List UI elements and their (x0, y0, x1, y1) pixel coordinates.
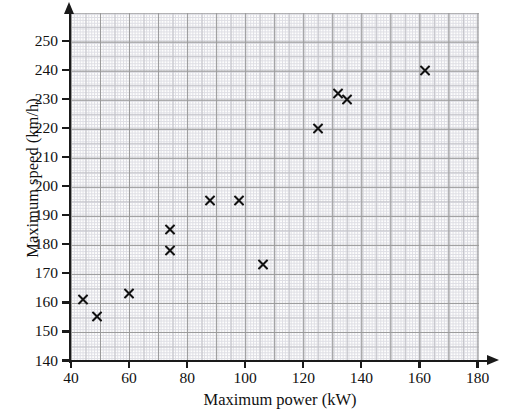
y-axis-tick (62, 330, 70, 332)
data-point-marker (310, 121, 325, 136)
data-point-marker (162, 243, 177, 258)
data-point-marker (255, 257, 270, 272)
x-axis-tick-label: 100 (220, 369, 270, 387)
x-axis-tick (186, 360, 188, 368)
y-axis-tick-label: 150 (18, 322, 58, 340)
data-point-marker (162, 222, 177, 237)
y-axis-tick (62, 69, 70, 71)
x-axis-tick (476, 360, 478, 368)
y-axis-tick (62, 127, 70, 129)
x-axis-tick-label: 60 (104, 369, 154, 387)
x-axis-tick (418, 360, 420, 368)
y-axis-tick (62, 185, 70, 187)
data-point-marker (203, 193, 218, 208)
x-axis-arrow-icon (487, 355, 499, 365)
x-axis-tick-label: 180 (453, 369, 503, 387)
x-axis-line (69, 360, 489, 362)
x-axis-tick-label: 160 (394, 369, 444, 387)
scatter-plot-figure: 140150160170180190200210220230240250 406… (0, 0, 532, 419)
y-axis-tick (62, 156, 70, 158)
y-axis-title: Maximum speed (km/h) (23, 63, 43, 293)
y-axis-tick (62, 214, 70, 216)
x-axis-tick-label: 40 (46, 369, 96, 387)
x-axis-tick (70, 360, 72, 368)
data-point-marker (90, 309, 105, 324)
y-axis-tick-label: 140 (18, 352, 58, 370)
x-axis-tick (128, 360, 130, 368)
y-axis-tick (62, 301, 70, 303)
y-axis-tick (62, 98, 70, 100)
y-axis-tick-label: 160 (18, 293, 58, 311)
y-axis-tick (62, 359, 70, 361)
data-point-marker (418, 63, 433, 78)
x-axis-tick-label: 140 (336, 369, 386, 387)
x-axis-title: Maximum power (kW) (120, 390, 440, 410)
data-point-marker (75, 292, 90, 307)
x-axis-tick (360, 360, 362, 368)
data-point-marker (232, 193, 247, 208)
x-axis-tick (302, 360, 304, 368)
x-axis-tick-label: 80 (162, 369, 212, 387)
y-axis-tick (62, 272, 70, 274)
y-axis-tick-label: 250 (18, 32, 58, 50)
data-point-marker (122, 286, 137, 301)
x-axis-tick-label: 120 (278, 369, 328, 387)
y-axis-arrow-icon (64, 2, 74, 14)
y-axis-tick (62, 40, 70, 42)
data-point-marker (339, 92, 354, 107)
x-axis-tick (244, 360, 246, 368)
y-axis-tick (62, 243, 70, 245)
y-axis-line (69, 13, 71, 363)
